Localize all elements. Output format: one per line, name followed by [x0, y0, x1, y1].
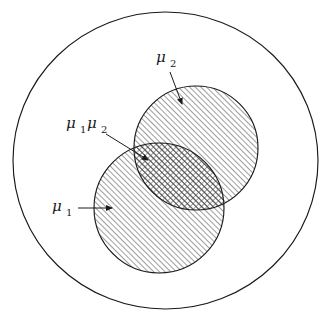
venn-diagram-svg: μ 2 μ 1 μ 1 μ 2 — [0, 0, 330, 321]
label-intersection-mu2: μ — [87, 114, 97, 132]
label-mu1-subscript: 1 — [66, 207, 72, 218]
label-intersection-mu1-subscript: 1 — [80, 124, 86, 135]
label-intersection-mu1: μ — [66, 114, 76, 132]
label-mu1: μ — [52, 197, 62, 215]
label-mu2-subscript: 2 — [170, 58, 176, 69]
venn-diagram-figure: μ 2 μ 1 μ 1 μ 2 — [0, 0, 330, 321]
label-mu2: μ — [156, 48, 166, 66]
label-intersection-mu2-subscript: 2 — [101, 124, 107, 135]
